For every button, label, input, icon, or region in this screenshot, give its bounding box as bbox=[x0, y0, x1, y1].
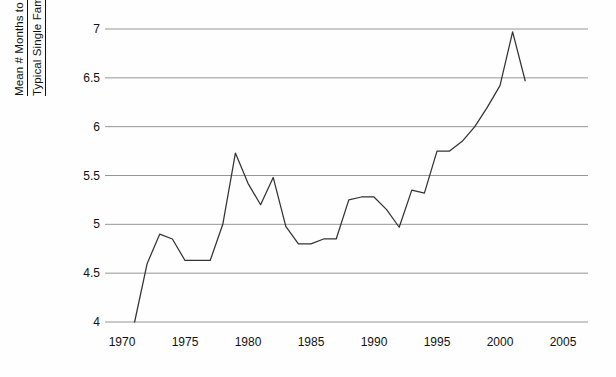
x-tick-label-1980: 1980 bbox=[218, 335, 278, 349]
x-tick-label-1995: 1995 bbox=[407, 335, 467, 349]
x-tick-label-2000: 2000 bbox=[470, 335, 530, 349]
x-tick-label-1970: 1970 bbox=[92, 335, 152, 349]
x-axis-tick-labels: 19701975198019851990199520002005 bbox=[0, 0, 616, 377]
x-tick-label-1990: 1990 bbox=[344, 335, 404, 349]
chart-container: Mean # Months to Construct Typical Singl… bbox=[0, 0, 616, 377]
x-tick-label-1985: 1985 bbox=[281, 335, 341, 349]
x-tick-label-2005: 2005 bbox=[533, 335, 593, 349]
x-tick-label-1975: 1975 bbox=[155, 335, 215, 349]
